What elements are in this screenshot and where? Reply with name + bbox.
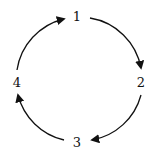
- node-3-label: 3: [73, 135, 81, 150]
- node-2-label: 2: [137, 75, 145, 90]
- arrow-4-to-1: [17, 19, 64, 70]
- arrow-1-to-2: [90, 18, 141, 68]
- arrow-3-to-4: [18, 95, 64, 140]
- arrow-2-to-3: [92, 95, 141, 140]
- node-1-label: 1: [73, 9, 81, 24]
- node-4-label: 4: [13, 75, 21, 90]
- cycle-diagram: 1 2 3 4: [0, 0, 155, 154]
- diagram-svg: 1 2 3 4: [0, 0, 155, 154]
